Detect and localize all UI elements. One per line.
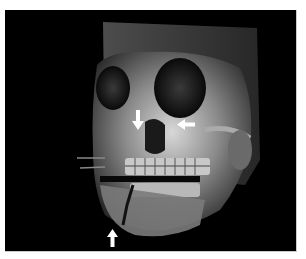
skull-3d-render	[5, 10, 296, 251]
arrow-left-icon	[177, 119, 195, 130]
arrow-down-icon	[132, 110, 144, 130]
ct-render-frame	[5, 10, 297, 252]
arrow-up-icon	[107, 229, 118, 247]
